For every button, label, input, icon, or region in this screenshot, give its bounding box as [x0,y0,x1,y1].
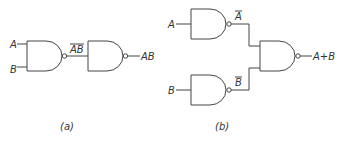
bottom-output-label: B [235,77,242,88]
inverter-bubble [227,22,231,26]
nand-gate-bottom [191,75,226,105]
caption-b: (b) [215,121,229,132]
inverter-bubble [227,88,231,92]
inverter-bubble [123,54,127,58]
panel-a: A B AB AB (a) [9,39,155,132]
inverter-bubble [62,54,66,58]
caption-a: (a) [60,121,74,132]
logic-diagram: A B AB AB (a) A A B B A+B (b) [0,0,342,143]
input-b-label: B [168,85,175,96]
input-a-label: A [167,19,175,30]
wire-top [231,24,260,46]
nand-gate-top [191,9,226,39]
input-a-label: A [9,39,17,50]
nand-gate-2 [88,41,123,71]
top-output-label: A [234,11,242,22]
intermediate-label: AB [69,44,84,55]
nand-gate-1 [27,41,62,71]
input-b-label: B [10,64,17,75]
nand-gate-output [260,41,295,71]
output-label: AB [140,51,155,62]
inverter-bubble [296,54,300,58]
output-label: A+B [312,51,335,62]
panel-b: A A B B A+B (b) [167,9,335,132]
